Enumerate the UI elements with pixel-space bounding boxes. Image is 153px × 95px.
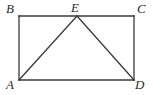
- vertex-label-b: B: [6, 2, 14, 15]
- vertex-label-e: E: [71, 1, 79, 14]
- geometry-figure: B E C A D: [0, 0, 153, 95]
- vertex-label-c: C: [137, 2, 146, 15]
- vertex-label-a: A: [6, 78, 14, 91]
- vertex-label-d: D: [135, 78, 144, 91]
